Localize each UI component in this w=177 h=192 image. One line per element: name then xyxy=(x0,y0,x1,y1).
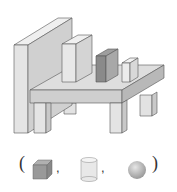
small-box-front xyxy=(122,63,130,82)
light-box-front xyxy=(62,44,76,82)
sphere-icon[interactable] xyxy=(128,161,146,179)
dark-box-front xyxy=(96,56,106,82)
separator: , xyxy=(56,160,60,175)
open-paren: ( xyxy=(19,153,25,174)
separator: , xyxy=(101,160,105,175)
table-leg xyxy=(46,103,51,133)
table-leg xyxy=(122,100,127,133)
cylinder-icon[interactable] xyxy=(81,158,97,182)
wall-front xyxy=(14,45,28,133)
table-leg xyxy=(152,92,157,116)
close-paren: ) xyxy=(152,153,158,174)
table-leg xyxy=(110,103,122,133)
table-front xyxy=(30,90,122,103)
block-scene xyxy=(0,0,177,192)
table-leg xyxy=(140,95,152,116)
table-leg xyxy=(34,103,46,133)
cube-icon[interactable] xyxy=(33,160,52,179)
